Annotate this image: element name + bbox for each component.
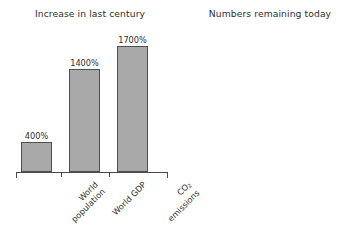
left-chart-axis-line [16,172,168,173]
left-chart-panel: Increase in last century 400% 1400% 1700… [0,0,180,248]
left-chart-axis-endcap-end [167,172,168,178]
left-chart-axis-tick-1 [61,172,62,177]
category-label-world-gdp: World GDP [111,180,149,218]
bar-value-co2-emissions: 1700% [109,35,156,45]
bar-world-gdp[interactable] [69,69,100,172]
bar-co2-emissions[interactable] [117,46,148,172]
left-chart-axis-endcap-start [16,172,17,178]
category-label-world-population: World population [63,180,107,224]
left-chart-plot-area: 400% 1400% 1700% World population World … [0,0,180,248]
category-label-line1: World GDP [110,179,148,217]
right-chart-panel: Numbers remaining today 80% 25% 5% Fores… [180,0,360,248]
bar-value-world-population: 400% [13,131,60,141]
bar-value-world-gdp: 1400% [61,58,108,68]
left-chart-axis-tick-2 [109,172,110,177]
right-chart-plot-area: 80% 25% 5% Forest areas Blue whales Tige… [180,0,360,248]
bar-world-population[interactable] [21,142,52,172]
